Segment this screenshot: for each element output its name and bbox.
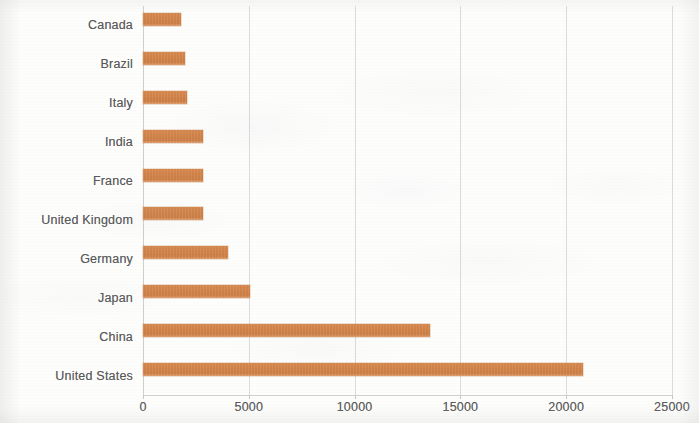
y-axis-tick-label: Canada [0, 6, 133, 45]
x-axis-tick-label: 20000 [548, 400, 584, 414]
y-axis-tick-label: Germany [0, 239, 133, 278]
bar[interactable] [143, 13, 181, 26]
y-axis-category-labels: CanadaBrazilItalyIndiaFranceUnited Kingd… [0, 6, 133, 395]
x-axis-tick-label: 25000 [654, 400, 690, 414]
x-axis-tickmark [249, 395, 250, 399]
x-axis-tick-label: 15000 [443, 400, 479, 414]
y-axis-tick-label: United Kingdom [0, 201, 133, 240]
bar[interactable] [143, 52, 185, 65]
y-axis-tick-label: China [0, 317, 133, 356]
x-axis-tick-label: 5000 [234, 400, 263, 414]
x-axis-tickmark [355, 395, 356, 399]
x-axis-tick-label: 0 [139, 400, 146, 414]
bar[interactable] [143, 246, 228, 259]
y-axis-tick-label: Japan [0, 278, 133, 317]
x-axis-tickmark [460, 395, 461, 399]
y-axis-tick-label: India [0, 123, 133, 162]
y-axis-tick-label: Brazil [0, 45, 133, 84]
bar[interactable] [143, 324, 430, 337]
bar[interactable] [143, 169, 203, 182]
bar[interactable] [143, 207, 203, 220]
y-axis-tick-label: Italy [0, 84, 133, 123]
x-axis-tickmark [672, 395, 673, 399]
x-axis-tick-label: 10000 [337, 400, 373, 414]
y-axis-tick-label: France [0, 162, 133, 201]
x-axis-tickmark [143, 395, 144, 399]
bar[interactable] [143, 91, 187, 104]
bar[interactable] [143, 130, 203, 143]
bar-chart-figure: CanadaBrazilItalyIndiaFranceUnited Kingd… [0, 0, 699, 423]
y-axis-tick-label: United States [0, 356, 133, 395]
bar[interactable] [143, 285, 250, 298]
bar[interactable] [143, 363, 583, 376]
x-axis-tickmark [566, 395, 567, 399]
x-axis-tick-labels: 0500010000150002000025000 [143, 400, 672, 420]
